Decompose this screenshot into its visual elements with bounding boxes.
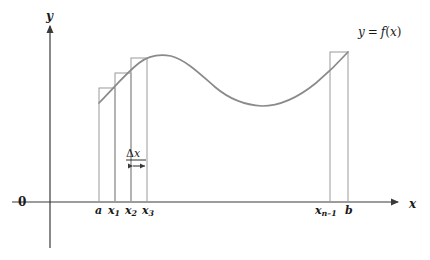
tick-label-xn1-sub: n–1 bbox=[322, 209, 337, 218]
tick-label-a-base: a bbox=[95, 204, 102, 217]
tick-label-a: a bbox=[95, 205, 102, 216]
riemann-rectangles-group bbox=[99, 52, 348, 202]
x-axis-label: x bbox=[409, 198, 416, 210]
origin-label: 0 bbox=[18, 196, 26, 208]
delta-symbol: Δ bbox=[126, 147, 134, 160]
equation-y: y bbox=[358, 25, 365, 39]
riemann-sum-diagram bbox=[0, 0, 430, 260]
riemann-rectangle-n bbox=[330, 52, 348, 202]
tick-label-x2-sub: 2 bbox=[132, 209, 138, 218]
y-axis-label: y bbox=[46, 10, 53, 22]
riemann-rectangle-1 bbox=[99, 88, 115, 202]
curve-equation-label: y=f(x) bbox=[358, 26, 401, 38]
equation-paren-close: ) bbox=[397, 25, 402, 39]
riemann-rectangle-2 bbox=[115, 73, 131, 202]
delta-x-label: Δx bbox=[126, 148, 140, 159]
equation-arg: x bbox=[390, 25, 397, 39]
tick-label-b: b bbox=[345, 205, 353, 216]
tick-label-x3-sub: 3 bbox=[149, 209, 155, 218]
delta-x-marker bbox=[126, 160, 146, 166]
tick-label-x1: x1 bbox=[108, 205, 120, 218]
function-curve bbox=[99, 52, 348, 106]
equation-equals: = bbox=[368, 25, 378, 39]
figure-canvas: y x 0 a x1 x2 x3 xn–1 b Δx y=f(x) bbox=[0, 0, 430, 260]
tick-label-x1-sub: 1 bbox=[115, 209, 121, 218]
riemann-rectangle-3 bbox=[131, 58, 147, 202]
tick-label-b-base: b bbox=[345, 204, 353, 217]
tick-label-x3: x3 bbox=[142, 205, 154, 218]
tick-label-x-n-minus-1: xn–1 bbox=[315, 205, 337, 218]
tick-label-x2: x2 bbox=[125, 205, 137, 218]
delta-x-variable: x bbox=[134, 147, 140, 160]
